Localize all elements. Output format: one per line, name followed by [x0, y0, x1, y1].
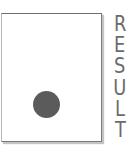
label-letter: S: [114, 56, 125, 77]
result-label: R E S U L T: [110, 14, 130, 141]
dot-marker: [33, 91, 60, 118]
result-card: [1, 13, 102, 142]
label-letter: R: [114, 14, 126, 35]
label-letter: E: [114, 35, 125, 56]
label-letter: T: [115, 120, 126, 141]
label-letter: U: [113, 78, 126, 99]
label-letter: L: [115, 99, 125, 120]
